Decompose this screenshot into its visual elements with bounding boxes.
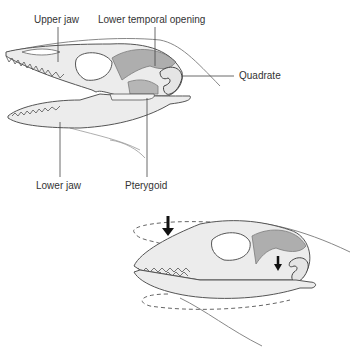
lower-jaw-bone	[8, 94, 190, 128]
closed-jaw-skull-kinesis	[134, 216, 350, 346]
open-jaw-skull	[6, 27, 234, 177]
pterygoid-bone	[110, 94, 154, 100]
downward-arrow-snout	[162, 216, 174, 236]
skull-diagram	[0, 0, 354, 358]
